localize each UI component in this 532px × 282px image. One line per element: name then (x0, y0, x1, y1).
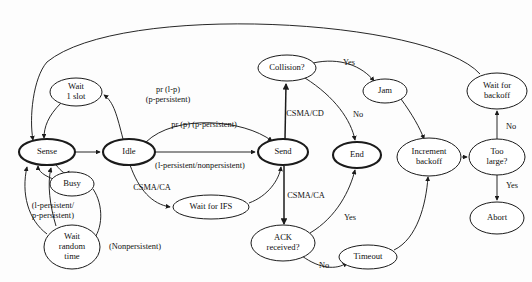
state-diagram: pr (l-p)(p-persistent)pr (p) (p-persiste… (0, 0, 532, 282)
node-label-waitifs: Wait for IFS (190, 201, 233, 211)
node-label-end: End (350, 149, 365, 159)
node-timeout[interactable]: Timeout (339, 245, 397, 269)
node-wait1slot[interactable]: Wait1 slot (50, 78, 102, 106)
edge-label-lbl-pr-1p: pr (l-p)(p-persistent) (146, 85, 191, 104)
node-collision[interactable]: Collision? (258, 55, 316, 81)
node-label-line: Wait (64, 231, 81, 241)
edge-label-line: CSMA/CA (133, 183, 171, 192)
node-label-send: Send (274, 146, 292, 156)
node-send[interactable]: Send (258, 139, 308, 165)
node-busy[interactable]: Busy (50, 172, 94, 196)
edge-label-line: pr (p) (p-persistent) (171, 120, 237, 129)
node-label-sense: Sense (37, 146, 57, 156)
edge-label-line: p-persistent) (32, 211, 74, 220)
node-label-line: received? (267, 242, 300, 252)
node-label-idle: Idle (122, 146, 136, 156)
edge-label-line: pr (l-p) (156, 85, 180, 94)
edge-label-line: CSMA/CD (286, 109, 324, 118)
edge-label-line: (p-persistent) (146, 95, 191, 104)
edge-label-lbl-yes-abort: Yes (506, 181, 518, 190)
node-label-busy: Busy (63, 178, 81, 188)
node-label-increment: Incrementbackoff (412, 146, 447, 166)
node-waitrandom[interactable]: Waitrandomtime (44, 225, 100, 269)
node-label-line: time (64, 251, 79, 261)
node-label-collision: Collision? (269, 62, 305, 72)
edge-label-line: (l-persistent/ (32, 201, 75, 210)
node-jam[interactable]: Jam (363, 79, 407, 103)
edge-label-lbl-pr-p: pr (p) (p-persistent) (171, 120, 237, 129)
node-label-line: Increment (412, 146, 447, 156)
edge-label-lbl-persist2: (l-persistent/p-persistent) (32, 201, 75, 220)
node-label-waitbackoff: Wait forbackoff (483, 80, 511, 100)
node-label-timeout: Timeout (354, 251, 383, 261)
edge-jam-to-increment (401, 99, 424, 139)
node-label-line: Jam (378, 85, 392, 95)
edge-idle-to-wait1slot (104, 95, 123, 139)
node-label-line: Too (490, 146, 503, 156)
node-label-jam: Jam (378, 85, 392, 95)
node-label-line: backoff (416, 156, 442, 166)
node-abort[interactable]: Abort (470, 202, 524, 234)
edge-label-lbl-csma-ca-2: CSMA/CA (287, 191, 325, 200)
node-label-abort: Abort (487, 212, 508, 222)
edge-label-line: Yes (344, 213, 356, 222)
node-label-line: End (350, 149, 365, 159)
node-label-line: 1 slot (67, 91, 86, 101)
edge-label-line: Yes (343, 58, 355, 67)
node-increment[interactable]: Incrementbackoff (397, 138, 461, 176)
edge-label-lbl-no-end: No (353, 110, 363, 119)
edge-label-line: No (353, 110, 363, 119)
node-label-line: Busy (63, 178, 81, 188)
edge-label-line: No (319, 261, 329, 270)
node-label-line: random (59, 241, 86, 251)
node-label-line: Abort (487, 212, 508, 222)
edge-label-line: (l-persistent/nonpersistent) (155, 161, 245, 170)
node-ack[interactable]: ACKreceived? (251, 225, 315, 261)
node-sense[interactable]: Sense (19, 139, 75, 165)
edge-ack-to-end (310, 170, 355, 233)
edge-waitifs-to-send (249, 167, 281, 203)
edge-label-lbl-csma-cd: CSMA/CD (286, 109, 324, 118)
node-label-wait1slot: Wait1 slot (67, 81, 86, 101)
edge-wait1slot-to-sense (44, 103, 61, 138)
node-label-line: large? (487, 156, 508, 166)
node-label-line: backoff (484, 90, 510, 100)
node-toolarge[interactable]: Toolarge? (469, 139, 525, 175)
node-label-line: Wait (68, 81, 85, 91)
nodes-layer: SenseWait1 slotIdleBusyWaitrandomtimeWai… (19, 55, 527, 269)
edge-label-line: (Nonpersistent) (109, 242, 161, 251)
edge-waitbackoff-to-sense (32, 24, 480, 140)
edge-timeout-to-increment (394, 177, 428, 250)
diagram-canvas: pr (l-p)(p-persistent)pr (p) (p-persiste… (0, 0, 532, 282)
edge-label-lbl-no-backoff: No (506, 122, 516, 131)
edge-label-line: CSMA/CA (287, 191, 325, 200)
edge-label-lbl-persistent: (l-persistent/nonpersistent) (155, 161, 245, 170)
node-label-line: Timeout (354, 251, 383, 261)
node-label-line: Send (274, 146, 292, 156)
node-end[interactable]: End (333, 142, 381, 168)
node-idle[interactable]: Idle (103, 139, 155, 165)
node-waitbackoff[interactable]: Wait forbackoff (467, 73, 527, 109)
node-label-line: ACK (274, 232, 293, 242)
edge-label-line: Yes (506, 181, 518, 190)
node-label-line: Sense (37, 146, 57, 156)
edge-label-lbl-yes-ack: Yes (344, 213, 356, 222)
edge-label-line: No (506, 122, 516, 131)
edge-label-lbl-csma-ca-1: CSMA/CA (133, 183, 171, 192)
node-label-line: Wait for IFS (190, 201, 233, 211)
edge-label-lbl-no-timeout: No (319, 261, 329, 270)
edge-label-lbl-nonpersist: (Nonpersistent) (109, 242, 161, 251)
node-label-line: Idle (122, 146, 136, 156)
node-waitifs[interactable]: Wait for IFS (173, 195, 249, 219)
node-label-line: Wait for (483, 80, 511, 90)
edge-label-lbl-yes-jam: Yes (343, 58, 355, 67)
node-label-line: Collision? (269, 62, 305, 72)
